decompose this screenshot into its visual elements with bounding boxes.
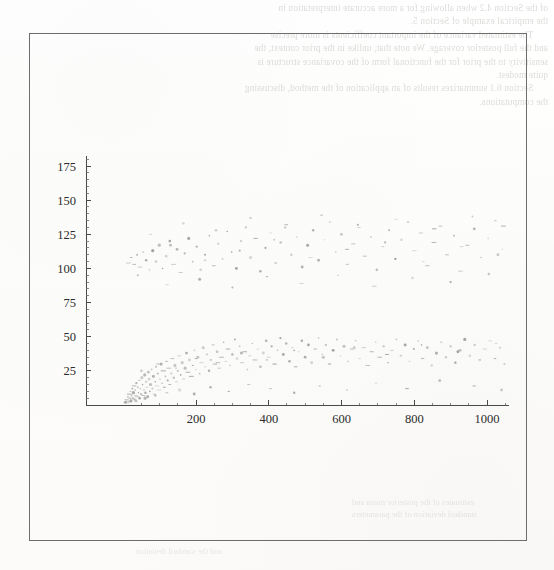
scanned-page: of the Section 4.2 when allowing for a m… [0,0,554,570]
bleed-through-text-footer: and the standard deviation [12,546,222,557]
figure-frame [29,33,527,541]
